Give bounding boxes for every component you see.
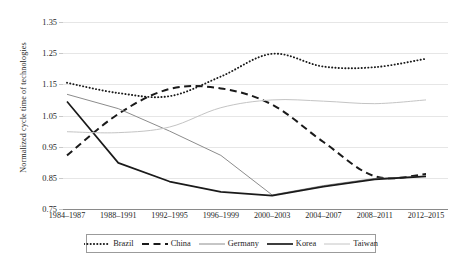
series-lines	[63, 22, 448, 209]
x-axis-tick-label: 2008–2011	[357, 211, 393, 220]
legend-label: Brazil	[113, 239, 133, 248]
x-axis-tick-label: 1996–1999	[203, 211, 239, 220]
series-line-brazil	[67, 54, 426, 98]
y-axis-tick-label: 1.05	[21, 111, 57, 120]
series-line-korea	[67, 101, 426, 195]
y-axis-tick-label: 1.15	[21, 80, 57, 89]
legend-item-germany[interactable]: Germany	[195, 239, 263, 248]
legend-swatch-korea	[267, 239, 293, 248]
legend-label: China	[171, 239, 191, 248]
y-axis-tick-label: 1.35	[21, 18, 57, 27]
x-axis-line	[63, 209, 448, 210]
legend-swatch-taiwan	[324, 239, 350, 248]
x-axis-tick-label: 2004–2007	[305, 211, 341, 220]
legend-item-brazil[interactable]: Brazil	[80, 239, 137, 248]
legend-swatch-china	[142, 239, 168, 248]
legend-label: Korea	[296, 239, 316, 248]
legend-swatch-germany	[199, 239, 225, 248]
x-axis-tick-label: 1984–1987	[49, 211, 85, 220]
x-axis-tick-label: 2012–2015	[408, 211, 444, 220]
x-axis-tick-labels: 1984–19871988–19911992–19951996–19992000…	[63, 211, 448, 225]
legend-label: Taiwan	[353, 239, 378, 248]
legend-item-china[interactable]: China	[138, 239, 195, 248]
legend-swatch-brazil	[84, 239, 110, 248]
chart-figure: Normalized cycle time of technologies 0.…	[0, 0, 459, 272]
legend-label: Germany	[228, 239, 259, 248]
series-line-taiwan	[67, 100, 426, 133]
legend-item-korea[interactable]: Korea	[263, 239, 320, 248]
x-axis-tick-label: 2000–2003	[254, 211, 290, 220]
y-axis-tick-label: 0.95	[21, 142, 57, 151]
chart-legend: BrazilChinaGermanyKoreaTaiwan	[86, 234, 376, 253]
legend-item-taiwan[interactable]: Taiwan	[320, 239, 382, 248]
x-axis-tick-label: 1988–1991	[100, 211, 136, 220]
plot-area: 0.750.850.951.051.151.251.35	[63, 22, 448, 209]
y-axis-tick-label: 1.25	[21, 49, 57, 58]
x-axis-tick-label: 1992–1995	[151, 211, 187, 220]
y-axis-tick-label: 0.85	[21, 173, 57, 182]
